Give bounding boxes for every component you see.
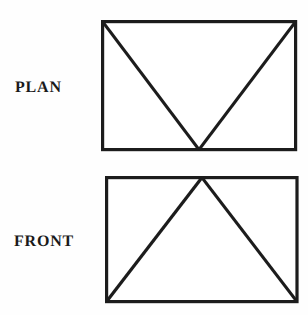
drawing-sheet: PLAN FRONT [0, 0, 308, 315]
plan-view-diagram [99, 18, 300, 154]
plan-view-svg [99, 18, 300, 154]
front-view-diagram [103, 174, 301, 305]
front-outline-rect [107, 178, 297, 302]
front-view-label: FRONT [14, 234, 74, 250]
plan-view-label: PLAN [15, 80, 62, 96]
front-view-svg [103, 174, 301, 305]
plan-outline-rect [103, 22, 296, 150]
